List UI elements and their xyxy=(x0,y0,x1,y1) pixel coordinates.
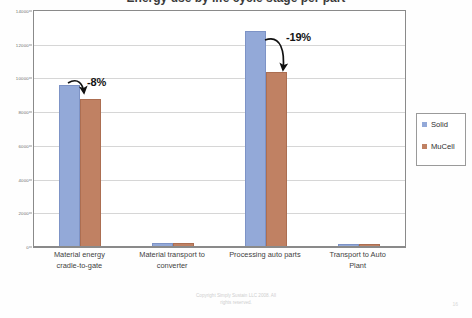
bar-group xyxy=(127,11,220,247)
x-axis-label-line: Plant xyxy=(301,261,414,272)
copyright-line-1: Copyright Simply Sustain LLC 2008. All xyxy=(0,292,472,299)
mucell-swatch xyxy=(422,144,427,149)
y-axis-tick-mark xyxy=(29,44,32,45)
x-axis-baseline xyxy=(34,246,405,247)
y-axis: 02000400060008000100001200014000 xyxy=(0,10,32,248)
x-axis-label-line: converter xyxy=(116,261,229,272)
y-axis-tick-label: 4000 xyxy=(18,177,29,182)
y-axis-tick-label: 14000 xyxy=(16,9,29,14)
y-axis-tick-mark xyxy=(29,213,32,214)
x-axis-label: Transport to AutoPlant xyxy=(301,250,414,271)
bar-solid[interactable] xyxy=(245,31,266,247)
x-axis-labels: Material energycradle-to-gateMaterial tr… xyxy=(33,250,406,284)
plot-area xyxy=(33,10,406,248)
x-axis-label-line: Transport to Auto xyxy=(301,250,414,261)
bar-mucell[interactable] xyxy=(80,99,101,247)
y-axis-tick-label: 12000 xyxy=(16,42,29,47)
y-axis-tick-mark xyxy=(29,78,32,79)
bar-series-container xyxy=(34,11,405,247)
page-number: 16 xyxy=(452,301,458,307)
copyright-footer: Copyright Simply Sustain LLC 2008. All r… xyxy=(0,292,472,306)
y-axis-tick-label: 2000 xyxy=(18,211,29,216)
y-axis-tick-mark xyxy=(29,145,32,146)
bar-group xyxy=(220,11,313,247)
legend-label: MuCell xyxy=(431,142,455,151)
solid-swatch xyxy=(422,122,427,127)
chart-title-cropped: Energy use by life cycle stage per part xyxy=(0,0,472,9)
legend-item[interactable]: Solid xyxy=(422,120,465,129)
bar-group xyxy=(34,11,127,247)
legend-label: Solid xyxy=(431,120,448,129)
annotation-minus19: -19% xyxy=(286,31,311,43)
y-axis-tick-mark xyxy=(29,179,32,180)
chart-legend: SolidMuCell xyxy=(416,113,466,166)
y-axis-tick-label: 6000 xyxy=(18,143,29,148)
annotation-minus8: -8% xyxy=(87,76,106,88)
y-axis-tick-label: 8000 xyxy=(18,110,29,115)
bar-group xyxy=(312,11,405,247)
y-axis-tick-mark xyxy=(29,11,32,12)
y-axis-tick-mark xyxy=(29,112,32,113)
legend-item[interactable]: MuCell xyxy=(422,142,465,151)
bar-solid[interactable] xyxy=(59,85,80,247)
y-axis-tick-mark xyxy=(29,247,32,248)
slide-canvas: Energy use by life cycle stage per part … xyxy=(0,0,472,318)
chart-title-text: Energy use by life cycle stage per part xyxy=(0,0,472,5)
copyright-line-2: rights reserved. xyxy=(0,299,472,306)
y-axis-tick-label: 10000 xyxy=(16,76,29,81)
bar-mucell[interactable] xyxy=(266,72,287,247)
